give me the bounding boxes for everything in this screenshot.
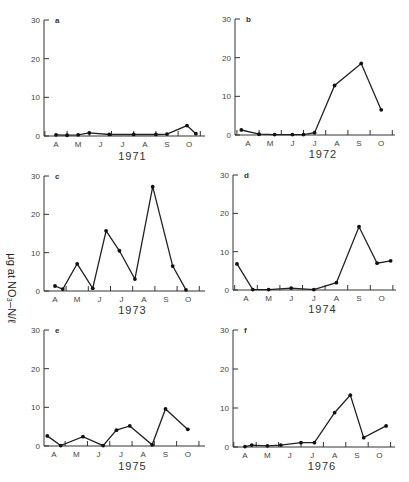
x-tick-label: A (141, 450, 147, 459)
y-tick-label: 0 (225, 286, 230, 295)
x-tick-label: A (243, 294, 249, 303)
x-tick-label: J (312, 294, 316, 303)
x-tick-label: S (356, 294, 361, 303)
panel-letter: b (246, 15, 251, 24)
panel-letter: c (55, 172, 60, 181)
x-tick-label: M (267, 139, 274, 148)
panel-letter: a (55, 16, 60, 25)
x-tick-label: S (163, 450, 168, 459)
data-point (313, 441, 317, 445)
x-tick-label: O (185, 450, 191, 459)
data-point (76, 133, 80, 137)
data-point (75, 262, 79, 266)
y-tick-label: 0 (36, 442, 41, 451)
data-point (389, 259, 393, 263)
x-tick-label: A (51, 450, 57, 459)
data-point (313, 131, 317, 135)
x-tick-label: M (74, 295, 81, 304)
y-tick-label: 0 (227, 131, 232, 140)
y-tick-label: 10 (31, 93, 40, 102)
y-tick-label: 10 (222, 92, 231, 101)
data-point (279, 443, 283, 447)
x-tick-label: S (163, 295, 168, 304)
x-tick-label: J (120, 295, 124, 304)
x-tick-label: J (97, 295, 101, 304)
data-point (194, 132, 198, 136)
data-point (101, 444, 105, 448)
data-point (53, 284, 57, 288)
x-tick-label: J (119, 450, 123, 459)
x-tick-label: O (186, 140, 192, 149)
panel-letter: f (244, 326, 247, 335)
x-tick-label: A (242, 451, 248, 460)
data-point (132, 133, 136, 137)
data-point (104, 229, 108, 233)
data-point (65, 133, 69, 137)
data-point (357, 225, 361, 229)
y-tick-label: 20 (31, 55, 40, 64)
data-point (266, 444, 270, 448)
x-tick-label: S (356, 139, 361, 148)
data-point (251, 288, 255, 292)
data-point (128, 424, 132, 428)
x-tick-label: M (75, 140, 82, 149)
y-tick-label: 0 (225, 443, 230, 452)
x-tick-label: A (141, 295, 147, 304)
x-tick-label: J (98, 140, 102, 149)
y-tick-label: 20 (222, 54, 231, 63)
y-tick-label: 10 (220, 248, 229, 257)
year-label: 1971 (118, 150, 146, 162)
panel-letter: e (55, 326, 60, 335)
data-point (81, 435, 85, 439)
data-line (237, 227, 391, 290)
data-line (47, 409, 188, 446)
x-tick-label: J (97, 450, 101, 459)
x-tick-label: J (290, 139, 294, 148)
x-tick-label: A (53, 140, 59, 149)
x-tick-label: J (313, 139, 317, 148)
data-point (91, 286, 95, 290)
data-point (150, 443, 154, 447)
y-axis-label: μg at NO₃–N/ℓ (2, 230, 16, 350)
x-tick-label: J (121, 140, 125, 149)
y-tick-label: 30 (31, 16, 40, 25)
data-point (384, 424, 388, 428)
y-tick-label: 10 (31, 249, 40, 258)
year-label: 1976 (308, 460, 336, 472)
x-tick-label: M (265, 294, 272, 303)
data-point (243, 445, 247, 449)
y-tick-label: 0 (36, 132, 41, 141)
data-point (164, 407, 168, 411)
x-tick-label: M (73, 450, 80, 459)
data-point (45, 434, 49, 438)
y-tick-label: 30 (222, 15, 231, 24)
data-point (61, 287, 65, 291)
data-point (239, 128, 243, 132)
figure-panels: 0102030AMJJASOa19710102030AMJJASOb197201… (0, 0, 409, 482)
data-point (291, 133, 295, 137)
x-tick-label: A (142, 140, 148, 149)
data-point (257, 132, 261, 136)
data-point (359, 62, 363, 66)
data-point (302, 133, 306, 137)
year-label: 1974 (308, 303, 336, 315)
data-line (241, 64, 381, 135)
year-label: 1973 (118, 304, 146, 316)
y-tick-label: 20 (31, 365, 40, 374)
data-point (299, 441, 303, 445)
x-tick-label: M (264, 451, 271, 460)
data-point (379, 108, 383, 112)
panel-letter: d (244, 171, 249, 180)
data-point (185, 124, 189, 128)
data-point (87, 131, 91, 135)
data-point (375, 261, 379, 265)
y-tick-label: 10 (31, 403, 40, 412)
data-line (55, 187, 186, 290)
data-point (312, 288, 316, 292)
data-point (165, 132, 169, 136)
y-tick-label: 30 (31, 326, 40, 335)
data-point (333, 84, 337, 88)
x-tick-label: S (164, 140, 169, 149)
data-point (335, 281, 339, 285)
x-tick-label: J (288, 451, 292, 460)
